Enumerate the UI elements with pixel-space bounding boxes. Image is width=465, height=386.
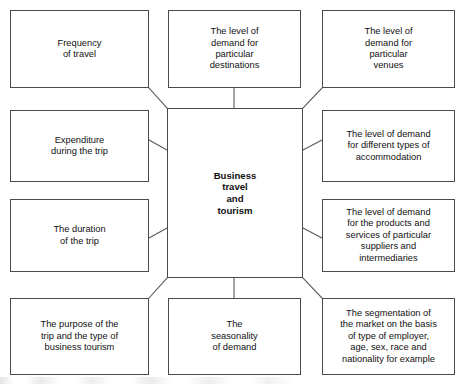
scan-artifact-smudge — [0, 377, 300, 384]
connector-demand-venues — [303, 88, 322, 108]
node-purpose-of-trip: The purpose of the trip and the type of … — [10, 298, 149, 375]
business-travel-tourism-diagram: Frequency of travel The level of demand … — [0, 0, 465, 386]
node-label: The level of demand for particular desti… — [210, 26, 260, 72]
connector-expenditure-during-trip — [149, 140, 167, 150]
connector-purpose-of-trip — [149, 278, 167, 298]
node-seasonality-of-demand: The seasonality of demand — [168, 298, 301, 375]
node-demand-venues: The level of demand for particular venue… — [322, 10, 455, 88]
connector-frequency-of-travel — [149, 88, 167, 108]
node-center-business-travel-and-tourism: Business travel and tourism — [167, 108, 303, 278]
node-label: The seasonality of demand — [211, 319, 258, 353]
node-label: The level of demand for the products and… — [346, 207, 431, 264]
center-node-label: Business travel and tourism — [214, 170, 257, 216]
node-label: The level of demand for different types … — [346, 129, 430, 163]
node-label: The duration of the trip — [53, 224, 105, 247]
connector-demand-accommodation — [303, 140, 322, 150]
node-expenditure-during-trip: Expenditure during the trip — [10, 110, 149, 182]
node-label: The segmentation of the market on the ba… — [340, 308, 437, 365]
node-label: Frequency of travel — [58, 38, 102, 61]
node-demand-destinations: The level of demand for particular desti… — [168, 10, 301, 88]
connector-demand-suppliers — [303, 228, 322, 238]
node-label: The purpose of the trip and the type of … — [40, 319, 118, 353]
connector-market-segmentation — [303, 278, 322, 298]
connector-duration-of-trip — [149, 228, 167, 238]
node-duration-of-trip: The duration of the trip — [10, 199, 149, 272]
node-label: The level of demand for particular venue… — [364, 26, 412, 72]
node-demand-suppliers: The level of demand for the products and… — [322, 199, 455, 272]
node-demand-accommodation: The level of demand for different types … — [322, 110, 455, 182]
node-label: Expenditure during the trip — [51, 135, 108, 158]
node-frequency-of-travel: Frequency of travel — [10, 10, 149, 88]
node-market-segmentation: The segmentation of the market on the ba… — [322, 298, 455, 375]
